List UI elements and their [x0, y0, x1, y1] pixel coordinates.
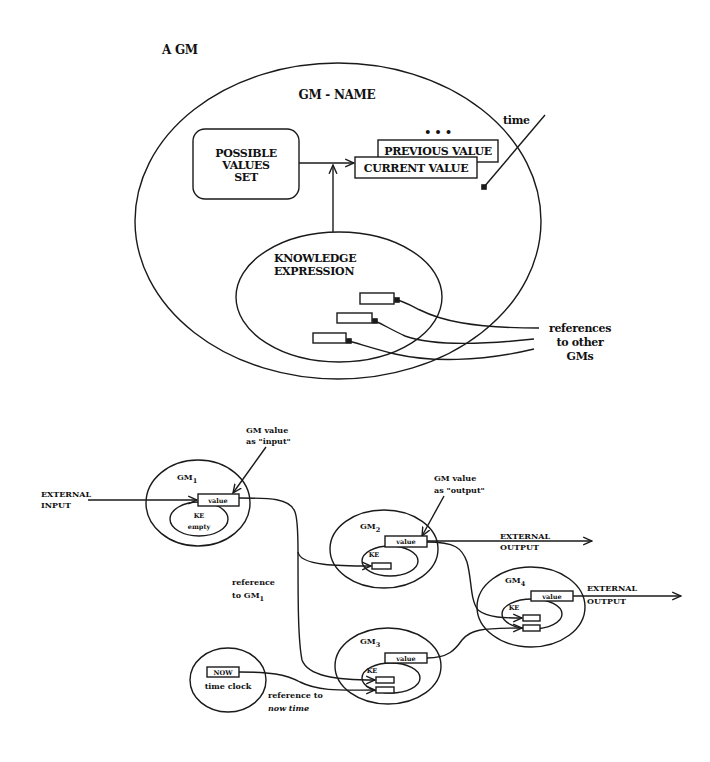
gm4-label: GM4 — [505, 575, 526, 588]
current-value-label: CURRENT VALUE — [364, 162, 469, 175]
references-label-2: to other — [556, 336, 604, 349]
reference-to-now-label-2: now time — [268, 703, 309, 713]
gm1-ke-note: empty — [188, 523, 211, 531]
gm-anatomy-figure: A GM GM - NAME POSSIBLE VALUES SET • • •… — [135, 43, 611, 379]
gm2-ke-label: KE — [369, 551, 380, 559]
reference-to-now-label-1: reference to — [268, 690, 323, 700]
references-label-3: GMs — [567, 350, 594, 363]
ke-reference-slot-3 — [313, 333, 346, 343]
gm4-ke-label: KE — [509, 604, 520, 612]
gm2-external-output-label-2: OUTPUT — [500, 542, 539, 552]
time-clock-label: time clock — [205, 681, 252, 691]
gm4-value-label: value — [541, 593, 561, 601]
gm-value-output-label-2: as "output" — [434, 485, 485, 495]
gm-diagram: A GM GM - NAME POSSIBLE VALUES SET • • •… — [0, 0, 710, 762]
gm4-node: GM4 value KE — [477, 567, 585, 647]
gm3-ke-slot-2 — [376, 687, 394, 693]
gm4-external-output-label-1: EXTERNAL — [587, 583, 638, 593]
gm3-value-label: value — [395, 655, 415, 663]
gm-value-output-pointer — [422, 496, 444, 536]
gm3-ke-slot-1 — [376, 677, 394, 683]
ke-reference-slot-2 — [337, 313, 372, 323]
gm-value-input-pointer — [233, 447, 266, 493]
gm1-node: GM1 value KE empty — [146, 460, 250, 546]
external-input-label-1: EXTERNAL — [41, 489, 92, 499]
gm1-ke-label: KE — [194, 512, 205, 520]
gm2-label: GM2 — [360, 521, 380, 534]
reference-to-gm1-label-2: to GM1 — [232, 590, 264, 603]
ellipsis-dots: • • • — [424, 126, 451, 139]
now-to-gm3-reference-curve — [239, 672, 375, 690]
gm-value-input-label-1: GM value — [246, 425, 288, 435]
reference-to-gm1-label-1: reference — [232, 577, 275, 587]
figure-title: A GM — [161, 43, 198, 57]
external-input-label-2: INPUT — [41, 500, 71, 510]
gm-outer-circle — [135, 63, 541, 379]
gm2-external-output-label-1: EXTERNAL — [500, 531, 551, 541]
gm1-value-label: value — [207, 497, 227, 505]
gm3-node: GM3 value KE — [335, 628, 441, 704]
possible-values-label-3: SET — [234, 171, 259, 184]
time-label: time — [503, 114, 530, 127]
knowledge-expression-label-1: KNOWLEDGE — [274, 252, 356, 265]
gm1-label: GM1 — [177, 472, 197, 485]
gm-value-output-label-1: GM value — [434, 473, 476, 483]
gm2-node: GM2 value KE — [330, 510, 438, 588]
gm1-to-gm3-reference-curve — [298, 552, 375, 680]
gm4-external-output-label-2: OUTPUT — [587, 596, 626, 606]
time-clock-node: NOW time clock — [190, 648, 266, 712]
ke-reference-slot-1 — [360, 293, 394, 304]
gm2-ke-slot — [372, 563, 391, 569]
references-label-1: references — [549, 322, 611, 335]
gm4-ke-slot-1 — [523, 615, 540, 621]
previous-value-label: PREVIOUS VALUE — [384, 145, 492, 158]
now-label: NOW — [214, 669, 234, 677]
gm-network-figure: GM value as "input" EXTERNAL INPUT GM1 v… — [41, 425, 681, 713]
reference-curve-1 — [397, 300, 539, 328]
gm3-ke-label: KE — [367, 667, 378, 675]
gm1-to-gm2-reference-curve — [239, 498, 371, 566]
gm-name-label: GM - NAME — [299, 88, 376, 102]
gm2-value-label: value — [395, 538, 415, 546]
gm-value-input-label-2: as "input" — [246, 436, 291, 446]
gm3-label: GM3 — [360, 636, 381, 649]
gm4-ke-slot-2 — [523, 625, 540, 631]
reference-curve-2 — [375, 321, 534, 344]
knowledge-expression-label-2: EXPRESSION — [274, 265, 354, 278]
